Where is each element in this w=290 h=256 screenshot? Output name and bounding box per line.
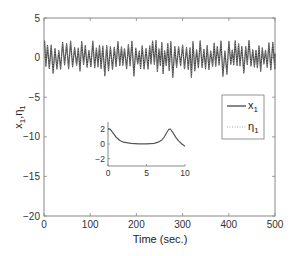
x-axis-label: Time (sec.): [133, 233, 188, 245]
y-tick-label: −20: [23, 211, 40, 222]
inset-x-tick-label: 5: [144, 168, 149, 178]
inset-axes: 051020−2: [95, 122, 190, 178]
inset-x-tick-label: 0: [106, 168, 111, 178]
inset-y-tick-label: 0: [100, 139, 105, 149]
x-tick-label: 200: [128, 219, 145, 230]
inset-series-x1-line: [108, 129, 185, 147]
y-tick-label: 0: [34, 52, 40, 63]
y-tick-label: −10: [23, 131, 40, 142]
y-tick-label: 5: [34, 13, 40, 24]
y-axis-label: x1,η1: [12, 105, 27, 129]
inset-y-tick-label: −2: [95, 154, 105, 164]
x-tick-label: 500: [267, 219, 284, 230]
x-tick-label: 0: [41, 219, 47, 230]
x-tick-label: 300: [174, 219, 191, 230]
chart: 010020030040050050−5−10−15−20 x1,η1 Time…: [0, 0, 290, 256]
legend: x1 η1: [222, 95, 264, 139]
inset-x-tick-label: 10: [180, 168, 190, 178]
y-tick-label: −5: [29, 92, 41, 103]
x-tick-label: 400: [220, 219, 237, 230]
inset-y-tick-label: 2: [100, 124, 105, 134]
x-tick-label: 100: [82, 219, 99, 230]
y-tick-label: −15: [23, 171, 40, 182]
